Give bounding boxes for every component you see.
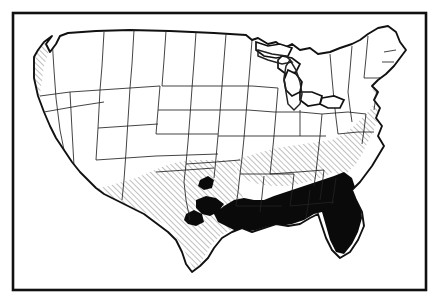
distribution-map-figure xyxy=(0,0,440,302)
map-canvas xyxy=(0,0,440,302)
